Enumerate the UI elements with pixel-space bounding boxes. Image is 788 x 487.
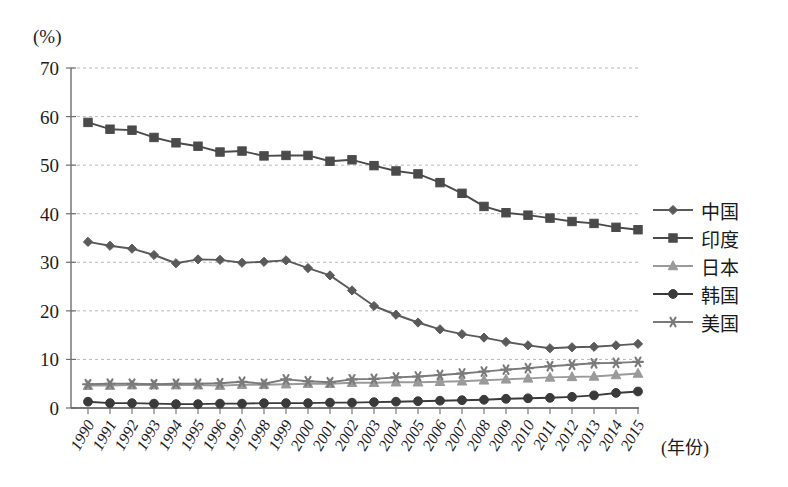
x-tick-label: 2015 xyxy=(617,417,648,453)
data-point-marker xyxy=(106,125,114,133)
data-point-marker xyxy=(633,339,642,348)
data-point-marker xyxy=(568,392,577,401)
legend-label: 韩国 xyxy=(701,281,739,308)
legend-glyph xyxy=(653,318,693,327)
data-point-marker xyxy=(172,139,180,147)
series-line xyxy=(88,391,638,404)
legend-glyph xyxy=(653,205,693,214)
data-point-marker xyxy=(105,241,114,250)
legend-glyph xyxy=(653,234,693,242)
data-point-marker xyxy=(215,255,224,264)
data-point-marker xyxy=(259,257,268,266)
data-point-marker xyxy=(633,358,643,367)
data-point-marker xyxy=(260,399,269,408)
series-line xyxy=(88,242,638,348)
data-point-marker xyxy=(413,318,422,327)
data-point-marker xyxy=(479,333,488,342)
data-point-marker xyxy=(612,223,620,231)
legend-marker-circle-icon xyxy=(652,284,694,304)
data-point-marker xyxy=(370,398,379,407)
data-point-marker xyxy=(348,156,356,164)
data-point-marker xyxy=(370,161,378,169)
data-point-marker xyxy=(391,310,400,319)
y-tick-label: 50 xyxy=(40,155,59,176)
data-point-marker xyxy=(172,400,181,409)
data-point-marker xyxy=(326,398,335,407)
data-point-marker xyxy=(502,209,510,217)
data-point-marker xyxy=(260,152,268,160)
legend-marker-square-icon xyxy=(652,228,694,248)
chart-container: (%) 010203040506070199019911992199319941… xyxy=(0,0,788,487)
data-point-marker xyxy=(612,389,621,398)
data-point-marker xyxy=(304,151,312,159)
legend-marker-diamond-icon xyxy=(652,200,694,220)
series-5 xyxy=(83,358,643,389)
y-tick-label: 0 xyxy=(50,398,60,419)
x-tick-label: 2010 xyxy=(507,417,538,453)
data-point-marker xyxy=(590,391,599,400)
data-point-marker xyxy=(502,394,511,403)
legend-item-1[interactable]: 中国 xyxy=(652,196,782,224)
data-point-marker xyxy=(83,237,92,246)
data-point-marker xyxy=(414,397,423,406)
axes xyxy=(71,68,639,408)
data-point-marker xyxy=(567,343,576,352)
data-point-marker xyxy=(435,325,444,334)
legend-label: 中国 xyxy=(701,197,739,224)
data-point-marker xyxy=(304,399,313,408)
chart-legend: 中国印度日本韩国美国 xyxy=(652,196,782,336)
legend-item-5[interactable]: 美国 xyxy=(652,308,782,336)
legend-label: 美国 xyxy=(701,309,739,336)
data-point-marker xyxy=(480,395,489,404)
data-point-marker xyxy=(668,205,677,214)
data-point-marker xyxy=(634,387,643,396)
legend-item-3[interactable]: 日本 xyxy=(652,252,782,280)
data-point-marker xyxy=(457,330,466,339)
data-point-marker xyxy=(392,397,401,406)
data-point-marker xyxy=(546,393,555,402)
y-tick-label: 10 xyxy=(40,349,59,370)
data-point-marker xyxy=(106,399,115,408)
data-point-marker xyxy=(436,396,445,405)
data-point-marker xyxy=(127,244,136,253)
x-axis-ticks: 1990199119921993199419951996199719981999… xyxy=(67,408,648,453)
data-point-marker xyxy=(150,399,159,408)
y-tick-label: 60 xyxy=(40,107,59,128)
data-point-marker xyxy=(523,341,532,350)
legend-marker-triangle-icon xyxy=(652,256,694,276)
data-point-marker xyxy=(546,214,554,222)
legend-glyph xyxy=(653,290,693,299)
data-point-marker xyxy=(216,399,225,408)
legend-item-2[interactable]: 印度 xyxy=(652,224,782,252)
data-point-marker xyxy=(237,258,246,267)
data-point-marker xyxy=(150,133,158,141)
y-tick-label: 40 xyxy=(40,204,59,225)
data-point-marker xyxy=(216,148,224,156)
data-point-marker xyxy=(480,202,488,210)
series-line xyxy=(88,362,638,384)
data-point-marker xyxy=(545,362,555,371)
data-point-marker xyxy=(171,259,180,268)
data-point-marker xyxy=(567,360,577,369)
series-1 xyxy=(83,237,642,353)
legend-marker-asterisk-icon xyxy=(652,312,694,332)
data-point-marker xyxy=(303,264,312,273)
data-point-marker xyxy=(568,217,576,225)
data-point-marker xyxy=(414,170,422,178)
series-2 xyxy=(84,118,642,234)
legend-item-4[interactable]: 韩国 xyxy=(652,280,782,308)
series-4 xyxy=(84,387,643,408)
y-tick-label: 30 xyxy=(40,252,59,273)
y-tick-label: 70 xyxy=(40,58,59,79)
data-point-marker xyxy=(194,142,202,150)
data-point-marker xyxy=(149,250,158,259)
data-point-marker xyxy=(524,394,533,403)
y-tick-label: 20 xyxy=(40,301,59,322)
data-point-marker xyxy=(193,255,202,264)
data-point-marker xyxy=(589,342,598,351)
legend-label: 日本 xyxy=(701,253,739,280)
data-point-marker xyxy=(634,226,642,234)
series-line xyxy=(88,122,638,229)
data-point-marker xyxy=(326,157,334,165)
data-point-marker xyxy=(524,211,532,219)
